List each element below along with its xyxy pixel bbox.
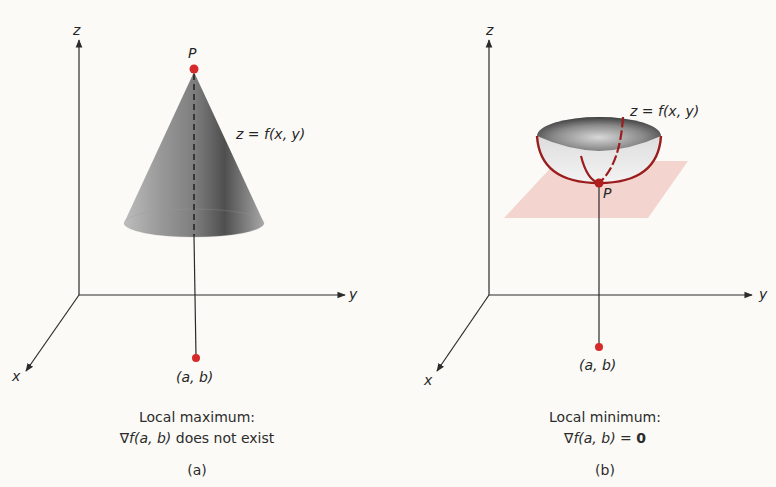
subfigure-label-a: (a) (187, 462, 207, 478)
x-axis (26, 295, 79, 371)
caption-b-line1: Local minimum: (549, 409, 661, 425)
surface-label: z = f(x, y) (630, 103, 699, 119)
x-axis-label: x (424, 372, 432, 388)
panel-a (26, 40, 345, 371)
caption-a-line1: Local maximum: (139, 409, 255, 425)
projection-line (194, 236, 196, 356)
x-axis (437, 295, 489, 371)
point-ab (595, 343, 603, 351)
subfigure-label-b: (b) (595, 462, 615, 478)
y-axis-label: y (349, 286, 357, 302)
point-ab (192, 354, 200, 362)
base-point-label: (a, b) (176, 369, 213, 385)
y-axis-label: y (759, 286, 767, 302)
zero-vector: 0 (636, 430, 646, 446)
surface-label: z = f(x, y) (236, 126, 305, 142)
nabla-symbol: ∇ (120, 430, 129, 446)
base-point-label: (a, b) (579, 357, 616, 373)
z-axis-label: z (73, 22, 80, 38)
panel-b (437, 40, 752, 371)
caption-b-line2: ∇f(a, b) = 0 (564, 430, 646, 446)
z-axis-label: z (486, 22, 493, 38)
point-p-label: P (603, 185, 611, 201)
caption-a-line2: ∇f(a, b) does not exist (120, 430, 275, 446)
point-p-label: P (188, 45, 196, 61)
x-axis-label: x (12, 368, 20, 384)
point-p (190, 65, 199, 74)
nabla-symbol: ∇ (564, 430, 573, 446)
